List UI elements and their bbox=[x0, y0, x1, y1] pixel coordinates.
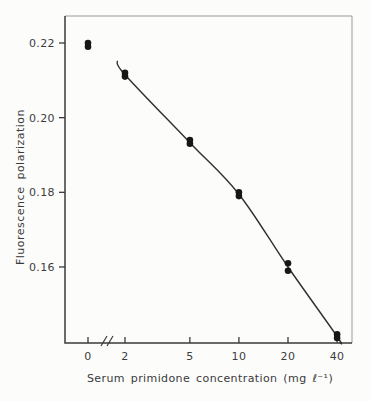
data-point bbox=[85, 43, 92, 50]
y-tick-label: 0.22 bbox=[29, 37, 55, 50]
x-axis-title: Serum primidone concentration (mg ℓ⁻¹) bbox=[64, 372, 356, 385]
x-tick-label: 40 bbox=[330, 350, 345, 363]
plot-area: 0.220.200.180.16025102040 bbox=[0, 0, 371, 401]
data-point bbox=[187, 141, 194, 148]
data-point bbox=[285, 260, 292, 267]
data-point bbox=[236, 193, 243, 200]
axis-break-icon bbox=[107, 336, 113, 346]
y-tick-label: 0.18 bbox=[29, 186, 55, 199]
x-tick-label: 5 bbox=[186, 350, 193, 363]
y-axis-title: Fluorescence polarization bbox=[14, 109, 27, 265]
y-tick-label: 0.16 bbox=[29, 261, 55, 274]
x-tick-label: 20 bbox=[281, 350, 296, 363]
axis-break-icon bbox=[101, 336, 107, 346]
x-tick-label: 10 bbox=[232, 350, 247, 363]
data-point bbox=[334, 335, 341, 342]
data-point bbox=[285, 267, 292, 274]
y-tick-label: 0.20 bbox=[29, 112, 55, 125]
calibration-figure: 0.220.200.180.16025102040 Fluorescence p… bbox=[0, 0, 371, 401]
x-tick-label: 0 bbox=[84, 350, 91, 363]
calibration-curve bbox=[117, 61, 342, 344]
data-point bbox=[122, 73, 129, 80]
x-tick-label: 2 bbox=[121, 350, 128, 363]
plot-frame-top-right bbox=[65, 16, 352, 343]
plot-frame-axes bbox=[65, 16, 352, 343]
